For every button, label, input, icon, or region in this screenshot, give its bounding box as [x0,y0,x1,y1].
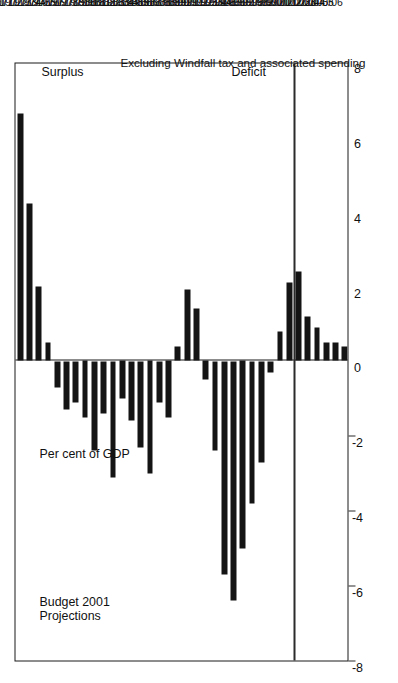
bar [137,361,143,447]
bar [202,361,208,380]
annotation-budget-projections: Budget 2001 Projections [39,594,109,623]
bar [230,361,236,601]
bar [184,289,190,360]
bar [212,361,218,451]
axis-tick-label: -6 [351,586,362,599]
bar [35,286,41,361]
annotation-axis-title: Per cent of GDP [39,446,129,460]
bar [165,361,171,417]
bar [100,361,106,413]
bar [304,316,310,361]
plot-area: Budget 2001 Projections Per cent of GDP … [14,62,348,661]
axis-tick-label: 6 [354,137,361,150]
annotation-footnote: Excluding Windfall tax and associated sp… [120,55,365,68]
bar [147,361,153,473]
axis-tick-label: -4 [351,511,362,524]
axis-tick-label: 0 [354,362,361,375]
bar [314,327,320,361]
bar [91,361,97,451]
bar [221,361,227,574]
bar [26,203,32,360]
bar [72,361,78,402]
bar [193,308,199,360]
bar [341,346,347,361]
axis-tick-label: -2 [351,436,362,449]
bar [249,361,255,503]
bar [323,342,329,361]
bar [258,361,264,462]
bar [63,361,69,410]
bar [119,361,125,398]
bar [286,282,292,361]
bar [295,271,301,361]
chart-figure-rotator: Budget 2001 Projections Per cent of GDP … [0,0,398,683]
axis-tick-label: 4 [354,212,361,225]
bar [54,361,60,387]
bar [45,342,51,361]
axis-tick-label: 2 [354,287,361,300]
axis-tick-label: -8 [351,661,362,674]
bar [267,361,273,372]
bar-chart-figure: Budget 2001 Projections Per cent of GDP … [0,0,398,683]
bar [128,361,134,421]
annotation-surplus: Surplus [41,64,83,78]
bars-layer [15,63,347,660]
bar [277,331,283,361]
bar [332,342,338,361]
bar [17,113,23,360]
bar [174,346,180,361]
value-axis: 86420-2-4-6-8 [348,62,396,661]
bar [156,361,162,402]
bar [82,361,88,417]
bar [239,361,245,548]
category-axis: 1970/711971/721972/731973/741974/751975/… [14,0,348,60]
category-label: 2005/06 [305,0,343,7]
